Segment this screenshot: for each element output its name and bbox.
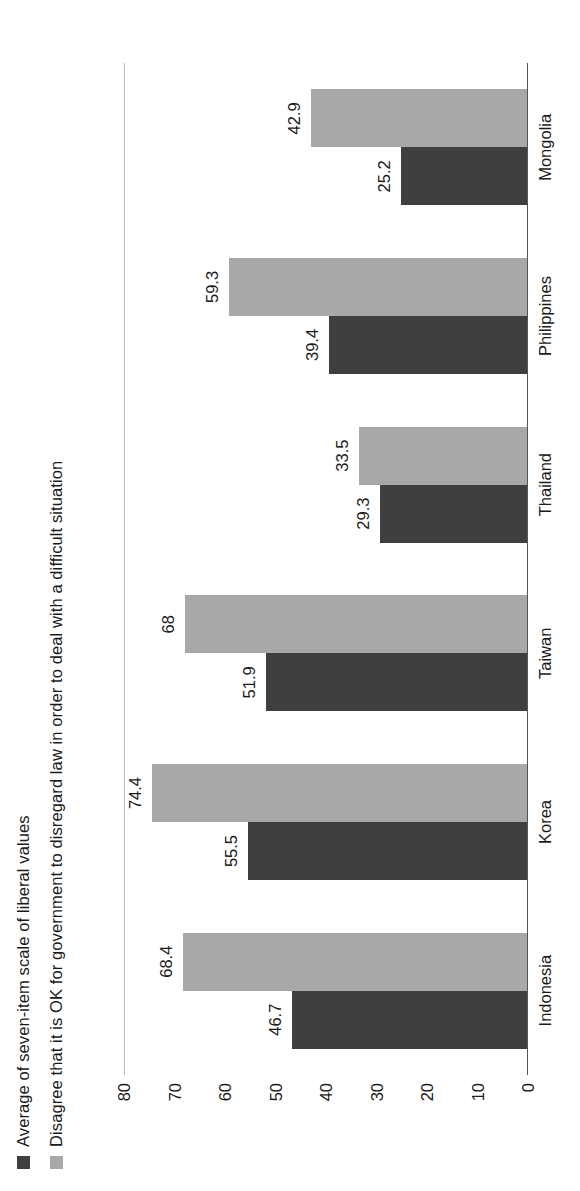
bar-slot: 42.9	[124, 89, 528, 147]
bar-chart-figure: Average of seven-item scale of liberal v…	[0, 0, 580, 1191]
bar-group: 29.333.5	[124, 400, 528, 569]
bar-value-label: 29.3	[354, 498, 373, 530]
plot-area: 46.768.455.574.451.96829.333.539.459.325…	[124, 63, 528, 1075]
y-axis-tick-label: 0	[519, 1083, 538, 1092]
bar-value-label: 42.9	[285, 102, 304, 134]
bar-slot: 74.4	[124, 764, 528, 822]
bar[interactable]: 33.5	[359, 427, 528, 485]
bar[interactable]: 39.4	[329, 316, 528, 374]
bar-value-label: 25.2	[375, 160, 394, 192]
bar-slot: 33.5	[124, 427, 528, 485]
legend-item-liberal-values: Average of seven-item scale of liberal v…	[14, 461, 33, 1169]
legend-label-liberal-values: Average of seven-item scale of liberal v…	[14, 815, 33, 1147]
category-axis-label: Mongolia	[536, 63, 555, 232]
bar[interactable]: 68	[185, 595, 528, 653]
bar-group: 55.574.4	[124, 738, 528, 907]
bar[interactable]: 25.2	[401, 147, 528, 205]
bar-value-label: 59.3	[203, 271, 222, 303]
bar[interactable]: 46.7	[292, 991, 528, 1049]
bar[interactable]: 55.5	[248, 822, 528, 880]
legend-label-disregard-law: Disagree that it is OK for government to…	[47, 461, 66, 1147]
bar-groups: 46.768.455.574.451.96829.333.539.459.325…	[124, 63, 528, 1075]
bar[interactable]: 29.3	[380, 485, 528, 543]
bar-value-label: 68.4	[157, 946, 176, 978]
category-labels: IndonesiaKoreaTaiwanThailandPhilippinesM…	[536, 63, 555, 1075]
bar-value-label: 33.5	[333, 440, 352, 472]
y-axis-tick-label: 50	[266, 1083, 285, 1101]
bar[interactable]: 42.9	[311, 89, 528, 147]
bar-slot: 46.7	[124, 991, 528, 1049]
category-axis-line	[527, 63, 528, 1075]
bar-slot: 68.4	[124, 933, 528, 991]
bar-slot: 25.2	[124, 147, 528, 205]
bar-value-label: 39.4	[303, 329, 322, 361]
bar-group: 46.768.4	[124, 906, 528, 1075]
category-axis-label: Taiwan	[536, 569, 555, 738]
bar-value-label: 46.7	[266, 1004, 285, 1036]
value-axis: 80706050403020100	[124, 1083, 528, 1131]
y-axis-tick-label: 10	[468, 1083, 487, 1101]
bar-slot: 68	[124, 595, 528, 653]
y-axis-tick-label: 20	[418, 1083, 437, 1101]
category-axis-label: Korea	[536, 738, 555, 907]
bar-slot: 39.4	[124, 316, 528, 374]
bar-group: 39.459.3	[124, 232, 528, 401]
bar-value-label: 74.4	[126, 777, 145, 809]
category-axis-label: Thailand	[536, 400, 555, 569]
bar-value-label: 68	[159, 615, 178, 633]
y-axis-tick-label: 60	[216, 1083, 235, 1101]
bar[interactable]: 51.9	[266, 653, 528, 711]
category-axis-label: Indonesia	[536, 906, 555, 1075]
bar-value-label: 51.9	[240, 666, 259, 698]
legend-item-disregard-law: Disagree that it is OK for government to…	[47, 461, 66, 1169]
bar-value-label: 55.5	[222, 835, 241, 867]
chart-legend: Average of seven-item scale of liberal v…	[14, 461, 66, 1169]
y-axis-tick-label: 30	[367, 1083, 386, 1101]
bar-group: 25.242.9	[124, 63, 528, 232]
bar[interactable]: 59.3	[229, 258, 528, 316]
bar-slot: 59.3	[124, 258, 528, 316]
rotated-figure-container: Average of seven-item scale of liberal v…	[0, 0, 580, 1191]
bar[interactable]: 68.4	[183, 933, 528, 991]
y-axis-tick-label: 80	[115, 1083, 134, 1101]
y-axis-tick-label: 40	[317, 1083, 336, 1101]
bar[interactable]: 74.4	[152, 764, 528, 822]
bar-slot: 29.3	[124, 485, 528, 543]
bar-slot: 55.5	[124, 822, 528, 880]
dark-square-icon	[17, 1156, 30, 1169]
y-axis-tick-label: 70	[165, 1083, 184, 1101]
category-axis-label: Philippines	[536, 232, 555, 401]
light-square-icon	[50, 1156, 63, 1169]
bar-group: 51.968	[124, 569, 528, 738]
bar-slot: 51.9	[124, 653, 528, 711]
